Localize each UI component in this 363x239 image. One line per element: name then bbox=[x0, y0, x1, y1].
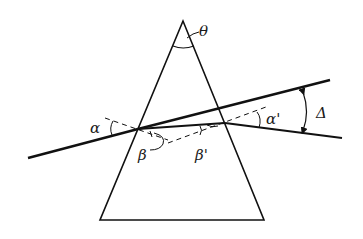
apex-angle-label: θ bbox=[199, 22, 208, 40]
alpha-label: α bbox=[90, 119, 100, 137]
emergent-ray bbox=[225, 123, 342, 138]
alpha-prime-label: α' bbox=[266, 110, 280, 128]
deviation-angle-arc bbox=[303, 92, 307, 131]
undeviated-ray-extension bbox=[138, 80, 330, 129]
alpha-angle-arc bbox=[111, 121, 113, 135]
alpha-prime-angle-arc bbox=[257, 112, 260, 128]
prism-triangle bbox=[100, 21, 264, 220]
deviation-label: Δ bbox=[315, 104, 327, 122]
prism-diagram: θ α β β' α' Δ bbox=[0, 0, 363, 239]
beta-prime-angle-arc bbox=[200, 126, 202, 135]
incident-ray bbox=[28, 129, 138, 158]
prism-diagram-svg: θ α β β' α' Δ bbox=[0, 0, 363, 239]
beta-prime-tick bbox=[207, 125, 218, 127]
apex-angle-arc bbox=[173, 46, 194, 48]
beta-label: β bbox=[137, 146, 147, 164]
beta-prime-label: β' bbox=[194, 146, 208, 164]
